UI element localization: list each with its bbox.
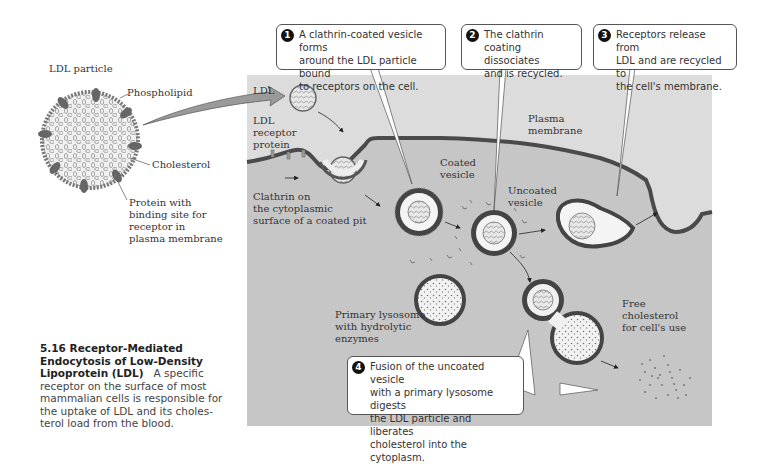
receptor-protein-label: LDL receptor protein (253, 115, 296, 151)
ldl-particle-title: LDL particle (49, 63, 113, 75)
uncoated-vesicle (471, 210, 517, 256)
callout-line: coating dissociates (484, 41, 575, 67)
clathrin-label: Clathrin on the cytoplasmic surface of a… (253, 191, 366, 227)
uncoated-vesicle-label: Uncoated vesicle (508, 185, 557, 209)
label-line: Primary lysosome (335, 309, 425, 321)
cholesterol-label: Cholesterol (152, 159, 210, 171)
step-1-callout: 1 A clathrin-coated vesicle forms around… (276, 24, 446, 70)
step-number-badge: 2 (466, 29, 479, 42)
step-3-callout: 3 Receptors release from LDL and are rec… (593, 24, 737, 70)
step-number-badge: 3 (598, 29, 611, 42)
figure-caption: 5.16 Receptor-Mediated Endocytosis of Lo… (40, 342, 240, 430)
label-line: the cytoplasmic (253, 203, 366, 215)
callout-line: LDL and are recycled to (616, 54, 730, 80)
protein-label-line: plasma membrane (129, 233, 223, 245)
ldl-label: LDL (253, 85, 274, 97)
callout-line: The clathrin (484, 28, 575, 41)
label-line: Plasma (528, 113, 582, 125)
phospholipid-label: Phospholipid (127, 87, 193, 99)
callout-line: to receptors on the cell. (299, 80, 439, 93)
caption-body: the uptake of LDL and its choles- (40, 405, 240, 418)
caption-title-line: 5.16 Receptor-Mediated (40, 342, 183, 354)
label-line: membrane (528, 125, 582, 137)
plasma-membrane-label: Plasma membrane (528, 113, 582, 137)
free-cholesterol-label: Free cholesterol for cell's use (622, 298, 686, 334)
coated-vesicle (395, 188, 443, 236)
label-line: surface of a coated pit (253, 215, 366, 227)
caption-body: receptor on the surface of most (40, 380, 240, 393)
caption-body: terol load from the blood. (40, 417, 240, 430)
primary-lysosome-label: Primary lysosome with hydrolytic enzymes (335, 309, 425, 345)
protein-label-line: receptor in (129, 221, 223, 233)
callout-line: around the LDL particle bound (299, 54, 439, 80)
label-line: receptor (253, 127, 296, 139)
label-line: Clathrin on (253, 191, 366, 203)
label-line: Uncoated (508, 185, 557, 197)
label-line: LDL (253, 115, 296, 127)
step-2-callout: 2 The clathrin coating dissociates and i… (461, 24, 582, 70)
protein-label: Protein with binding site for receptor i… (129, 197, 223, 245)
callout-line: Receptors release from (616, 28, 730, 54)
label-line: vesicle (508, 197, 557, 209)
label-line: enzymes (335, 333, 425, 345)
label-line: protein (253, 139, 296, 151)
label-line: Free (622, 298, 686, 310)
label-line: with hydrolytic (335, 321, 425, 333)
label-line: cholesterol (622, 310, 686, 322)
ldl-particle-large (38, 88, 150, 200)
step-number-badge: 4 (352, 361, 365, 374)
callout-line: cholesterol into the cytoplasm. (370, 438, 517, 464)
step-4-callout: 4 Fusion of the uncoated vesicle with a … (347, 356, 524, 415)
caption-body: mammalian cells is responsible for (40, 392, 240, 405)
callout-line: with a primary lysosome digests (370, 386, 517, 412)
callout-line: and is recycled. (484, 67, 575, 80)
callout-line: A clathrin-coated vesicle forms (299, 28, 439, 54)
callout-line: the LDL particle and liberates (370, 412, 517, 438)
coated-vesicle-label: Coated vesicle (440, 157, 476, 181)
caption-title-line: Lipoprotein (LDL) (40, 367, 144, 379)
label-line: Coated (440, 157, 476, 169)
label-line: for cell's use (622, 322, 686, 334)
callout-line: Fusion of the uncoated vesicle (370, 360, 517, 386)
label-line: vesicle (440, 169, 476, 181)
caption-title-line: Endocytosis of Low-Density (40, 355, 203, 367)
caption-body: A specific (154, 367, 204, 379)
protein-label-line: Protein with (129, 197, 223, 209)
protein-label-line: binding site for (129, 209, 223, 221)
callout-line: the cell's membrane. (616, 80, 730, 93)
step-number-badge: 1 (281, 29, 294, 42)
